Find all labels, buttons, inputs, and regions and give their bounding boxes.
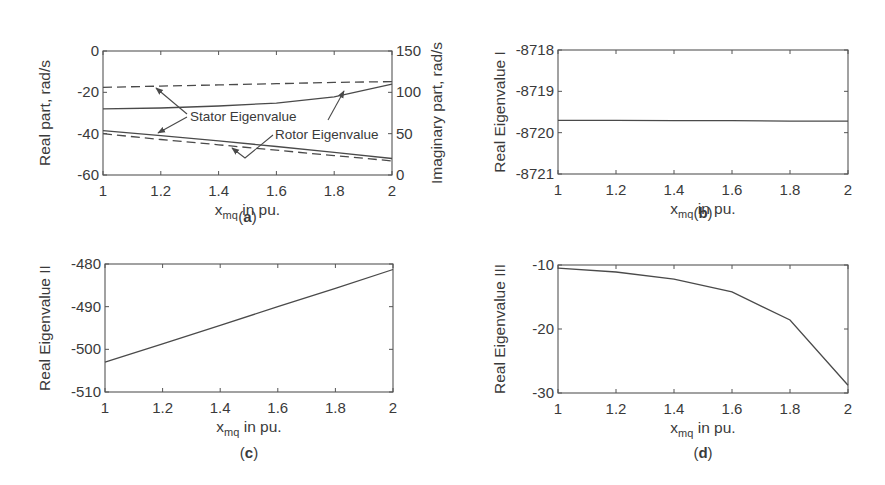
subplot-caption: (b) <box>693 204 712 221</box>
x-tick-label: 1 <box>101 399 109 416</box>
y-tick-label: -30 <box>532 384 554 401</box>
subplot-caption: (c) <box>240 444 258 461</box>
x-tick-label: 1.8 <box>780 400 801 417</box>
x-tick-label: 1.4 <box>664 181 685 198</box>
rotor-eigenvalue-label: Rotor Eigenvalue <box>275 127 379 142</box>
x-tick-label: 1.6 <box>722 181 743 198</box>
x-tick-label: 1.2 <box>606 400 627 417</box>
y-axis-label: Real Eigenvalue III <box>491 264 508 394</box>
y-tick-label: -40 <box>77 125 99 142</box>
x-axis-ticks: 11.21.41.61.82 <box>101 264 397 416</box>
plot-frame <box>558 50 848 174</box>
plot-frame <box>558 265 848 393</box>
y-tick-label: -8718 <box>516 41 554 58</box>
subplot-c: 11.21.41.61.82-480-490-500-510Real Eigen… <box>36 255 397 461</box>
y-axis-right-ticks: 150100500 <box>388 42 421 183</box>
x-tick-label: 2 <box>844 400 852 417</box>
subplot-a: 11.21.41.61.820-20-40-60150100500Imagina… <box>36 42 445 225</box>
y-tick-label: -480 <box>71 255 101 272</box>
y-tick-label: -8721 <box>516 165 554 182</box>
y-axis-ticks: -8718-8719-8720-8721 <box>516 41 848 182</box>
series-line <box>558 268 848 385</box>
y-axis-ticks: -480-490-500-510 <box>71 255 393 400</box>
y-tick-label: -20 <box>532 320 554 337</box>
x-tick-label: 1 <box>554 400 562 417</box>
y-axis-label: Real Eigenvalue II <box>36 265 53 391</box>
series-line <box>103 82 392 88</box>
y-tick-label: -510 <box>71 383 101 400</box>
y-tick-label: -500 <box>71 340 101 357</box>
y-tick-label: 0 <box>91 42 99 59</box>
arrow-icon <box>232 135 273 158</box>
y-tick-label: -20 <box>77 83 99 100</box>
x-axis-label: xmq in pu. <box>670 419 735 439</box>
x-tick-label: 1.8 <box>325 399 346 416</box>
x-tick-label: 1.2 <box>152 399 173 416</box>
subplot-caption: (d) <box>693 444 712 461</box>
y-axis-right-label: Imaginary part, rad/s <box>428 42 445 184</box>
x-tick-label: 1.6 <box>266 182 287 199</box>
series-line <box>558 120 848 121</box>
y-right-tick-label: 50 <box>396 125 413 142</box>
series-line <box>103 84 392 109</box>
annotations: Stator EigenvalueRotor Eigenvalue <box>156 88 379 158</box>
y-right-tick-label: 0 <box>396 166 404 183</box>
y-tick-label: -8720 <box>516 124 554 141</box>
x-axis-ticks: 11.21.41.61.82 <box>554 265 852 417</box>
x-tick-label: 1.2 <box>606 181 627 198</box>
x-axis-ticks: 11.21.41.61.82 <box>554 50 852 198</box>
y-right-tick-label: 100 <box>396 83 421 100</box>
y-axis-label: Real Eigenvalue I <box>491 51 508 173</box>
y-right-tick-label: 150 <box>396 42 421 59</box>
x-tick-label: 1.8 <box>324 182 345 199</box>
y-axis-label: Real part, rad/s <box>36 60 53 166</box>
x-tick-label: 1.6 <box>722 400 743 417</box>
x-tick-label: 1.6 <box>267 399 288 416</box>
subplot-d: 11.21.41.61.82-10-20-30Real Eigenvalue I… <box>491 256 852 461</box>
y-tick-label: -10 <box>532 256 554 273</box>
series-line <box>105 270 393 363</box>
x-axis-ticks: 11.21.41.61.82 <box>99 51 396 199</box>
x-tick-label: 1.4 <box>664 400 685 417</box>
x-tick-label: 1 <box>554 181 562 198</box>
x-tick-label: 2 <box>388 182 396 199</box>
figure-canvas: 11.21.41.61.820-20-40-60150100500Imagina… <box>0 0 885 485</box>
x-tick-label: 1.4 <box>210 399 231 416</box>
arrow-icon <box>328 91 344 120</box>
y-tick-label: -8719 <box>516 82 554 99</box>
subplot-caption: (a) <box>238 208 256 225</box>
arrow-icon <box>156 88 187 114</box>
x-tick-label: 1.4 <box>208 182 229 199</box>
subplot-b: 11.21.41.61.82-8718-8719-8720-8721Real E… <box>491 41 852 221</box>
x-axis-label: xmq in pu. <box>216 418 281 438</box>
x-tick-label: 1.2 <box>150 182 171 199</box>
arrow-icon <box>158 117 187 133</box>
x-tick-label: 1 <box>99 182 107 199</box>
x-tick-label: 2 <box>389 399 397 416</box>
y-tick-label: -490 <box>71 298 101 315</box>
x-tick-label: 2 <box>844 181 852 198</box>
stator-eigenvalue-label: Stator Eigenvalue <box>190 109 297 124</box>
y-tick-label: -60 <box>77 166 99 183</box>
y-axis-ticks: -10-20-30 <box>532 256 848 401</box>
x-tick-label: 1.8 <box>780 181 801 198</box>
